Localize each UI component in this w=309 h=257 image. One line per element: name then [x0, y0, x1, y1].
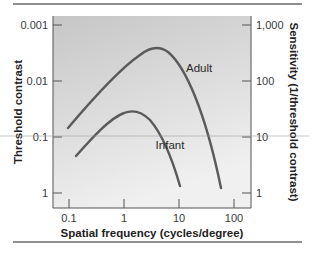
x-tick-1: 1	[121, 212, 127, 224]
y-left-tick-3: 1	[42, 187, 48, 199]
x-tick-3: 100	[225, 212, 243, 224]
y-right-tick-0: 1,000	[256, 19, 284, 31]
y-right-tick-3: 1	[256, 187, 262, 199]
x-axis-title: Spatial frequency (cycles/degree)	[61, 227, 244, 239]
adult-label: Adult	[186, 62, 213, 74]
y-right-tick-2: 10	[256, 131, 268, 143]
y-right-axis-title: Sensitivity (1/threshold contrast)	[288, 23, 300, 202]
y-right-tick-1: 100	[256, 75, 274, 87]
contrast-sensitivity-chart: 0.001 0.01 0.1 1 1,000 100 10 1 0.1 1 10…	[0, 0, 309, 257]
y-left-tick-2: 0.1	[33, 131, 48, 143]
x-tick-2: 10	[173, 212, 185, 224]
y-left-tick-1: 0.01	[27, 75, 48, 87]
x-tick-0: 0.1	[61, 212, 76, 224]
y-left-tick-0: 0.001	[20, 19, 48, 31]
y-left-axis-title: Threshold contrast	[12, 60, 24, 164]
infant-label: Infant	[156, 139, 186, 151]
